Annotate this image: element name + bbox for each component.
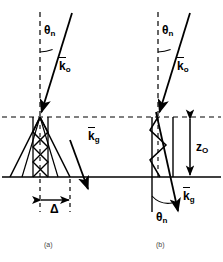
panel-b-exit-angle-label: θn [156,211,167,223]
panel-a-caption: (a) [44,241,53,248]
panel-b-incidence-angle-arc [158,50,171,52]
panel-b-exit-angle-arc [152,196,172,203]
panel-b-caption: (b) [156,241,165,248]
panel-b-exit-ray [156,112,178,211]
panel-b-diffracted-wavevector-label: kg [183,190,195,202]
panel-b-incidence-angle-label: θn [162,24,173,36]
panel-a-incidence-angle-arc [40,50,53,52]
panel-a-incidence-angle-label: θn [44,24,55,36]
overbar-k-g-panel-b [183,187,190,188]
panel-a-diffracted-wavevector-label: kg [88,130,100,142]
overbar-k-o-panel-b [177,57,184,58]
overbar-k-o-panel-a [59,57,66,58]
panel-b-thickness-label: zO [196,141,208,153]
overbar-k-g-panel-a [88,127,95,128]
figure-container: θn ko kg Δ θn ko zO kg θn (a) (b) [0,0,223,262]
panel-b-incident-wavevector-label: ko [177,60,189,72]
ray-diagram-svg [0,0,223,262]
panel-a-exit-ray [70,140,88,189]
panel-a-displacement-label: Δ [50,203,59,215]
panel-a-incident-wavevector-label: ko [59,60,71,72]
